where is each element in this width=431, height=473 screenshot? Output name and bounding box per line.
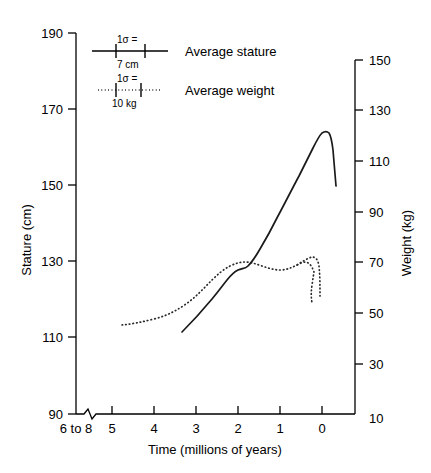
data-series-group [122, 132, 336, 333]
left-axis-title: Stature (cm) [19, 204, 34, 276]
left-tick-label-130: 130 [41, 254, 63, 269]
chart-figure: 190 170 150 130 110 90 Stature (cm) 150 … [0, 0, 431, 473]
legend-entry-average-weight: 1σ = 10 kg Average weight [98, 73, 275, 109]
left-tick-label-110: 110 [42, 330, 63, 345]
x-axis: 6 to 8 5 4 3 2 1 0 Time (millions of yea… [60, 406, 355, 457]
x-tick-label-2: 2 [234, 421, 241, 436]
right-tick-label-50: 50 [369, 306, 383, 321]
right-tick-label-130: 130 [369, 103, 391, 118]
x-tick-label-1: 1 [276, 421, 283, 436]
x-tick-label-0: 0 [318, 421, 325, 436]
legend-sigma-value-stature: 7 cm [117, 59, 139, 70]
right-tick-label-10: 10 [369, 411, 383, 426]
x-tick-label-5: 5 [108, 421, 115, 436]
right-tick-label-70: 70 [369, 255, 383, 270]
legend-sigma-label-stature: 1σ = [117, 34, 138, 45]
left-tick-label-150: 150 [41, 178, 63, 193]
legend-label-average-weight: Average weight [185, 83, 275, 98]
right-tick-label-90: 90 [369, 205, 383, 220]
x-axis-title: Time (millions of years) [148, 442, 282, 457]
x-tick-label-4: 4 [150, 421, 157, 436]
series-average-weight [122, 262, 314, 325]
legend-entry-average-stature: 1σ = 7 cm Average stature [92, 34, 277, 70]
left-tick-label-170: 170 [41, 102, 63, 117]
left-axis: 190 170 150 130 110 90 Stature (cm) [19, 26, 76, 422]
legend-sigma-label-weight: 1σ = [117, 73, 138, 84]
x-axis-line-with-break [76, 409, 355, 419]
right-tick-label-150: 150 [369, 53, 391, 68]
legend-sigma-value-weight: 10 kg [112, 98, 136, 109]
legend-label-average-stature: Average stature [185, 44, 277, 59]
right-axis-title: Weight (kg) [399, 210, 414, 276]
left-tick-label-90: 90 [49, 407, 63, 422]
right-tick-label-110: 110 [369, 154, 390, 169]
left-tick-label-190: 190 [41, 26, 63, 41]
x-tick-label-6to8: 6 to 8 [60, 421, 93, 436]
right-tick-label-30: 30 [369, 357, 383, 372]
chart-legend: 1σ = 7 cm Average stature 1σ = 10 kg Ave… [92, 34, 277, 109]
human-evolution-stature-weight-chart: 190 170 150 130 110 90 Stature (cm) 150 … [0, 0, 431, 473]
right-axis: 150 130 110 90 70 50 30 10 Weight (kg) [355, 53, 414, 426]
x-tick-label-3: 3 [192, 421, 199, 436]
series-average-stature [182, 132, 336, 333]
